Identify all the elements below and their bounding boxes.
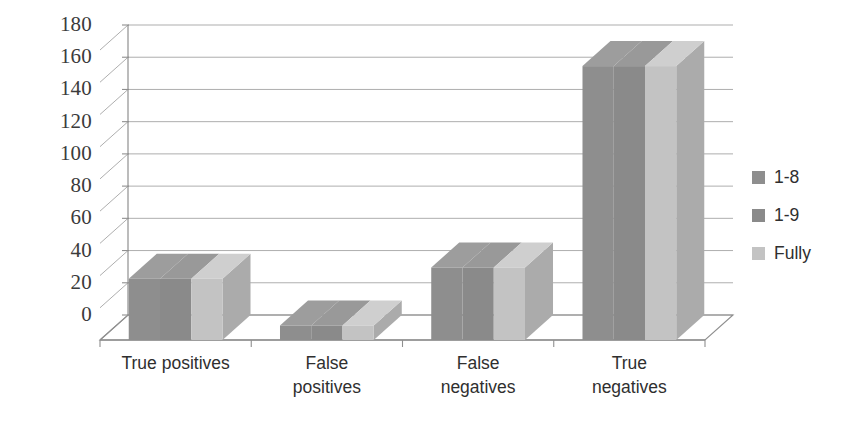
bar-front-face — [582, 66, 613, 340]
bar-front-face — [343, 326, 374, 341]
legend-item[interactable]: Fully — [752, 234, 862, 272]
x-axis-category-label: False positives — [251, 352, 402, 399]
y-axis-tick-labels: 020406080100120140160180 — [0, 0, 92, 426]
bar-front-face — [462, 268, 493, 341]
chart-container: 020406080100120140160180 True positivesF… — [0, 0, 867, 426]
y-axis-tick-label: 180 — [4, 14, 92, 35]
x-axis-category-label: True negatives — [554, 352, 705, 399]
legend-swatch-icon — [752, 171, 765, 184]
legend-item[interactable]: 1-9 — [752, 196, 862, 234]
bar-front-face — [645, 66, 676, 340]
legend-swatch-icon — [752, 247, 765, 260]
legend-label: 1-8 — [774, 167, 799, 188]
y-axis-tick-label: 160 — [4, 46, 92, 67]
y-axis-tick-label: 60 — [4, 207, 92, 228]
x-axis-category-label: False negatives — [403, 352, 554, 399]
bar-front-face — [614, 66, 645, 340]
y-axis-tick-label: 0 — [4, 304, 92, 325]
bar-front-face — [160, 279, 191, 340]
y-axis-tick-label: 20 — [4, 272, 92, 293]
bar-front-face — [311, 326, 342, 341]
bar-group-layer — [129, 41, 705, 340]
y-axis-tick-label: 140 — [4, 78, 92, 99]
bar-front-face — [494, 268, 525, 341]
bar-front-face — [191, 279, 222, 340]
y-axis-tick-label: 40 — [4, 240, 92, 261]
bar-front-face — [431, 268, 462, 341]
legend-item[interactable]: 1-8 — [752, 158, 862, 196]
x-axis-category-label: True positives — [100, 352, 251, 376]
y-axis-tick-label: 80 — [4, 175, 92, 196]
x-tickmark-group — [100, 340, 705, 347]
chart-legend: 1-81-9Fully — [752, 158, 862, 272]
bar-front-face — [280, 326, 311, 341]
bar — [645, 41, 704, 340]
legend-label: Fully — [774, 243, 811, 264]
legend-label: 1-9 — [774, 205, 799, 226]
y-axis-tick-label: 120 — [4, 111, 92, 132]
bar-side-face — [676, 41, 704, 340]
legend-swatch-icon — [752, 209, 765, 222]
y-axis-tick-label: 100 — [4, 143, 92, 164]
x-axis-category-labels: True positivesFalse positivesFalse negat… — [100, 352, 700, 426]
bar-front-face — [129, 279, 160, 340]
